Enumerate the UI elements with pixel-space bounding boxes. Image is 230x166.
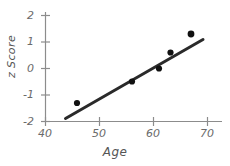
data-point — [167, 49, 173, 55]
scatter-plot-figure: 2 1 0 -1 -2 40 50 60 70 Age z Score — [0, 0, 230, 166]
y-tick-label-2: 2 — [12, 10, 34, 21]
x-axis-title: Age — [0, 145, 230, 159]
y-tick-label-neg1: -1 — [12, 89, 34, 100]
data-point — [129, 78, 135, 84]
data-point — [74, 100, 80, 106]
data-points — [74, 31, 195, 107]
y-axis-title: z Score — [5, 27, 18, 87]
data-point — [188, 31, 195, 38]
x-tick-label-40: 40 — [30, 128, 60, 139]
trend-line — [66, 40, 204, 119]
x-tick-label-50: 50 — [84, 128, 114, 139]
data-point — [156, 65, 162, 71]
x-tick-label-70: 70 — [192, 128, 222, 139]
y-tick-label-neg2: -2 — [12, 116, 34, 127]
x-tick-label-60: 60 — [138, 128, 168, 139]
plot-area — [0, 0, 230, 166]
